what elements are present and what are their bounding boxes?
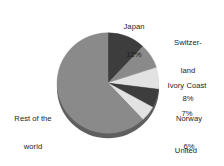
slice-label-switzerland-name-1: Switzer-	[160, 38, 216, 47]
slice-label-ivory-coast-name: Ivory Coast	[156, 81, 218, 90]
slice-label-rest-of-world-name-2: world	[2, 142, 64, 151]
slice-label-norway-name: Norway	[162, 114, 216, 123]
slice-label-united-states-name-1: United	[158, 146, 214, 155]
slice-label-united-states: United States 5%	[158, 128, 214, 166]
pie-chart-figure: Japan 12% Switzer- land 8% Ivory Coast 7…	[0, 0, 224, 166]
slice-label-japan-value: 12%	[106, 50, 162, 59]
chart-area: Japan 12% Switzer- land 8% Ivory Coast 7…	[0, 0, 224, 166]
slice-label-rest-of-world: Rest of the world 62%	[2, 96, 64, 166]
slice-label-japan: Japan 12%	[106, 4, 162, 78]
slice-label-rest-of-world-name-1: Rest of the	[2, 114, 64, 123]
slice-label-japan-name: Japan	[106, 22, 162, 31]
